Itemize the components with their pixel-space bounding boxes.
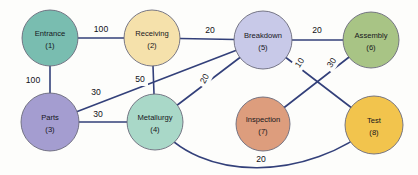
node-test-circle[interactable] bbox=[345, 96, 403, 154]
node-entrance[interactable]: Entrance (1) bbox=[22, 10, 78, 66]
node-inspection-label: Inspection bbox=[246, 115, 281, 124]
svg-text:50: 50 bbox=[135, 74, 145, 84]
node-receiving[interactable]: Receiving (2) bbox=[124, 10, 180, 66]
node-assembly-circle[interactable] bbox=[343, 12, 399, 68]
weight-parts-breakdown: 30 bbox=[88, 86, 104, 99]
svg-text:100: 100 bbox=[94, 24, 109, 34]
svg-text:20: 20 bbox=[312, 25, 322, 35]
node-test-id: (8) bbox=[369, 128, 379, 137]
weight-receiving-metallurgy: 50 bbox=[132, 73, 148, 86]
diagram-canvas: Entrance (1) Receiving (2) Parts (3) Met… bbox=[0, 0, 418, 175]
svg-text:20: 20 bbox=[256, 154, 266, 164]
node-entrance-circle[interactable] bbox=[22, 10, 78, 66]
node-assembly-label: Assembly bbox=[355, 31, 388, 40]
svg-text:30: 30 bbox=[91, 87, 101, 97]
node-metallurgy-circle[interactable] bbox=[127, 94, 183, 150]
node-assembly[interactable]: Assembly (6) bbox=[343, 12, 399, 68]
node-inspection-circle[interactable] bbox=[236, 97, 290, 151]
node-inspection-id: (7) bbox=[258, 127, 268, 136]
node-parts[interactable]: Parts (3) bbox=[21, 93, 79, 151]
node-receiving-circle[interactable] bbox=[124, 10, 180, 66]
node-metallurgy-label: Metallurgy bbox=[137, 113, 172, 122]
node-metallurgy[interactable]: Metallurgy (4) bbox=[127, 94, 183, 150]
svg-text:100: 100 bbox=[26, 75, 41, 85]
edge-layer bbox=[50, 38, 374, 168]
node-parts-circle[interactable] bbox=[21, 93, 79, 151]
node-test-label: Test bbox=[367, 116, 382, 125]
node-breakdown-circle[interactable] bbox=[234, 11, 292, 69]
weight-entrance-receiving: 100 bbox=[90, 23, 112, 36]
node-test[interactable]: Test (8) bbox=[345, 96, 403, 154]
weight-metallurgy-breakdown: 20 bbox=[195, 69, 214, 89]
weight-breakdown-assembly: 20 bbox=[309, 24, 325, 37]
node-assembly-id: (6) bbox=[366, 43, 376, 52]
node-parts-label: Parts bbox=[41, 113, 59, 122]
node-breakdown[interactable]: Breakdown (5) bbox=[234, 11, 292, 69]
node-entrance-id: (1) bbox=[45, 41, 55, 50]
node-breakdown-id: (5) bbox=[258, 43, 268, 52]
weight-inspection-assembly: 30 bbox=[322, 52, 342, 72]
network-graph: Entrance (1) Receiving (2) Parts (3) Met… bbox=[0, 0, 418, 175]
node-receiving-id: (2) bbox=[147, 41, 157, 50]
svg-text:20: 20 bbox=[205, 25, 215, 35]
node-inspection[interactable]: Inspection (7) bbox=[236, 97, 290, 151]
weight-receiving-breakdown: 20 bbox=[202, 24, 218, 37]
node-parts-id: (3) bbox=[45, 125, 55, 134]
weight-metallurgy-test: 20 bbox=[253, 153, 269, 166]
node-metallurgy-id: (4) bbox=[150, 125, 160, 134]
weight-entrance-parts: 100 bbox=[22, 74, 44, 87]
weight-breakdown-test: 10 bbox=[290, 52, 310, 72]
svg-text:30: 30 bbox=[93, 109, 103, 119]
weight-parts-metallurgy: 30 bbox=[90, 108, 106, 121]
node-breakdown-label: Breakdown bbox=[244, 31, 282, 40]
node-receiving-label: Receiving bbox=[135, 29, 168, 38]
node-entrance-label: Entrance bbox=[35, 29, 65, 38]
